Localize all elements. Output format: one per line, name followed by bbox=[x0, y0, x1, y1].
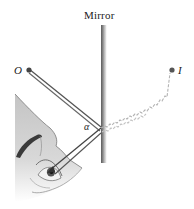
mirror bbox=[101, 25, 107, 163]
object-point bbox=[26, 67, 31, 72]
mirror-diagram bbox=[0, 0, 194, 209]
virtual-rays bbox=[101, 73, 170, 132]
mirror-label: Mirror bbox=[84, 9, 115, 21]
image-label: I bbox=[178, 64, 182, 76]
image-point bbox=[169, 67, 174, 72]
object-label: O bbox=[14, 64, 22, 76]
angle-label: α bbox=[84, 121, 89, 132]
observer-face bbox=[15, 94, 82, 202]
